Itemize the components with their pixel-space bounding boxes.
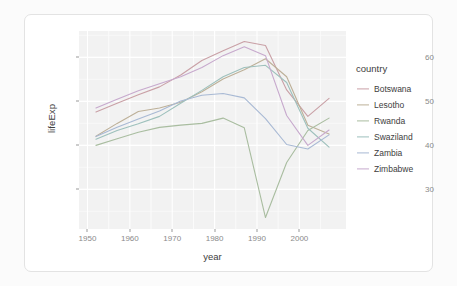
y-tick-mark	[76, 145, 79, 146]
series-line-zimbabwe	[96, 47, 329, 146]
x-tick-mark	[87, 229, 88, 232]
x-tick-mark	[299, 229, 300, 232]
y-tick-mark	[76, 101, 79, 102]
legend-item-botswana[interactable]: Botswana	[356, 81, 434, 96]
legend-items: BotswanaLesothoRwandaSwazilandZambiaZimb…	[356, 81, 434, 176]
legend-item-label: Swaziland	[374, 132, 413, 142]
plot-panel	[79, 31, 346, 229]
ggplot-figure: 30405060 lifeExp 19501960197019801990200…	[25, 15, 434, 273]
legend-key-line-icon	[356, 99, 370, 111]
legend-item-label: Lesotho	[374, 100, 404, 110]
x-tick-label: 1960	[121, 234, 139, 243]
legend: country BotswanaLesothoRwandaSwazilandZa…	[356, 63, 434, 177]
legend-item-label: Zimbabwe	[374, 164, 413, 174]
x-tick-mark	[129, 229, 130, 232]
legend-key-line-icon	[356, 131, 370, 143]
x-tick-label: 1950	[79, 234, 97, 243]
series-line-botswana	[96, 42, 329, 117]
legend-item-swaziland[interactable]: Swaziland	[356, 129, 434, 144]
legend-item-label: Zambia	[374, 148, 402, 158]
y-tick-label: 30	[390, 185, 434, 194]
legend-item-zimbabwe[interactable]: Zimbabwe	[356, 161, 434, 176]
y-tick-mark	[76, 189, 79, 190]
x-tick-label: 1980	[206, 234, 224, 243]
legend-item-label: Botswana	[374, 84, 411, 94]
x-tick-mark	[257, 229, 258, 232]
legend-key-line-icon	[356, 163, 370, 175]
series-line-rwanda	[96, 118, 329, 217]
legend-item-lesotho[interactable]: Lesotho	[356, 97, 434, 112]
legend-item-rwanda[interactable]: Rwanda	[356, 113, 434, 128]
x-tick-label: 2000	[290, 234, 308, 243]
legend-title: country	[356, 63, 434, 74]
y-tick-label: 60	[390, 53, 434, 62]
x-axis-title: year	[79, 251, 346, 262]
x-tick-label: 1990	[248, 234, 266, 243]
plot-panel-svg	[79, 31, 346, 229]
x-tick-mark	[172, 229, 173, 232]
series-lines	[96, 42, 329, 218]
x-tick-label: 1970	[163, 234, 181, 243]
y-axis-title: lifeExp	[46, 74, 57, 164]
y-tick-mark	[76, 57, 79, 58]
x-tick-mark	[214, 229, 215, 232]
legend-item-zambia[interactable]: Zambia	[356, 145, 434, 160]
screenshot-root: 30405060 lifeExp 19501960197019801990200…	[0, 0, 457, 286]
legend-key-line-icon	[356, 83, 370, 95]
chart-card: 30405060 lifeExp 19501960197019801990200…	[24, 14, 433, 272]
legend-key-line-icon	[356, 147, 370, 159]
legend-item-label: Rwanda	[374, 116, 405, 126]
legend-key-line-icon	[356, 115, 370, 127]
